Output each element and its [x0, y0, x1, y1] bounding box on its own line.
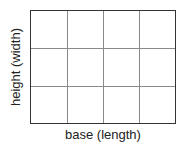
- base-label: base (length): [30, 127, 176, 142]
- grid-row-divider: [31, 48, 175, 49]
- grid-column-divider: [139, 11, 140, 123]
- grid-column-divider: [103, 11, 104, 123]
- height-label: height (width): [8, 28, 23, 106]
- rectangle-grid: [30, 10, 176, 124]
- grid-column-divider: [67, 11, 68, 123]
- grid-row-divider: [31, 86, 175, 87]
